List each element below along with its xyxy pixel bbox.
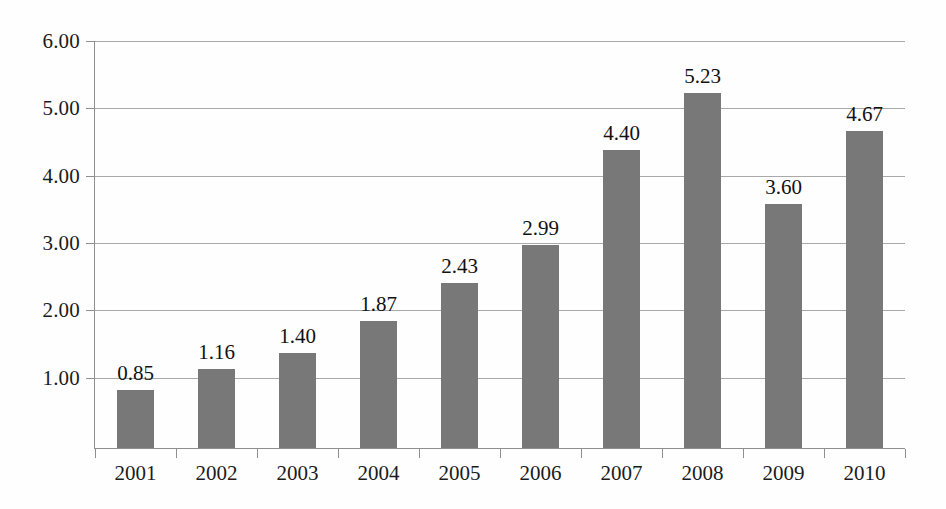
bar-value-label-2006: 2.99 — [506, 218, 576, 239]
bars-layer — [95, 41, 905, 448]
y-tick-label-6: 6.00 — [42, 31, 80, 52]
bar-2005[interactable] — [441, 283, 478, 448]
x-tick-label-2001: 2001 — [96, 462, 176, 484]
y-tick-label-3: 3.00 — [42, 233, 80, 254]
bar-2007[interactable] — [603, 150, 640, 448]
y-tick-label-4: 4.00 — [42, 166, 80, 187]
bar-value-label-2003: 1.40 — [263, 326, 333, 347]
y-tick-label-1: 1.00 — [42, 368, 80, 389]
x-tick-mark — [500, 449, 501, 458]
x-tick-label-2009: 2009 — [744, 462, 824, 484]
bar-value-label-2005: 2.43 — [425, 256, 495, 277]
x-tick-label-2002: 2002 — [177, 462, 257, 484]
bar-chart: 6.00 5.00 4.00 3.00 2.00 1.00 2001200220… — [0, 0, 946, 509]
bar-2002[interactable] — [198, 369, 235, 448]
x-tick-mark — [95, 449, 96, 458]
x-tick-label-2007: 2007 — [582, 462, 662, 484]
x-tick-mark — [824, 449, 825, 458]
bar-2003[interactable] — [279, 353, 316, 448]
x-tick-mark — [743, 449, 744, 458]
bar-value-label-2007: 4.40 — [587, 123, 657, 144]
x-tick-mark — [338, 449, 339, 458]
x-tick-label-2004: 2004 — [339, 462, 419, 484]
x-tick-label-2005: 2005 — [420, 462, 500, 484]
bar-2010[interactable] — [846, 131, 883, 448]
x-tick-mark — [905, 449, 906, 458]
y-axis-labels: 6.00 5.00 4.00 3.00 2.00 1.00 — [0, 0, 80, 509]
x-tick-mark — [419, 449, 420, 458]
plot-area — [95, 41, 905, 448]
y-tick-label-5: 5.00 — [42, 98, 80, 119]
bar-value-label-2001: 0.85 — [101, 363, 171, 384]
bar-value-label-2009: 3.60 — [749, 177, 819, 198]
x-tick-mark — [662, 449, 663, 458]
bar-2008[interactable] — [684, 93, 721, 448]
x-tick-mark — [581, 449, 582, 458]
bar-value-label-2004: 1.87 — [344, 294, 414, 315]
bar-value-label-2010: 4.67 — [830, 104, 900, 125]
x-tick-mark — [176, 449, 177, 458]
x-tick-mark — [257, 449, 258, 458]
bar-value-label-2002: 1.16 — [182, 342, 252, 363]
bar-2004[interactable] — [360, 321, 397, 448]
bar-value-label-2008: 5.23 — [668, 66, 738, 87]
x-tick-label-2008: 2008 — [663, 462, 743, 484]
y-tick-label-2: 2.00 — [42, 300, 80, 321]
bar-2006[interactable] — [522, 245, 559, 448]
x-tick-label-2006: 2006 — [501, 462, 581, 484]
bar-2009[interactable] — [765, 204, 802, 448]
bar-2001[interactable] — [117, 390, 154, 448]
x-tick-label-2010: 2010 — [825, 462, 905, 484]
x-tick-label-2003: 2003 — [258, 462, 338, 484]
